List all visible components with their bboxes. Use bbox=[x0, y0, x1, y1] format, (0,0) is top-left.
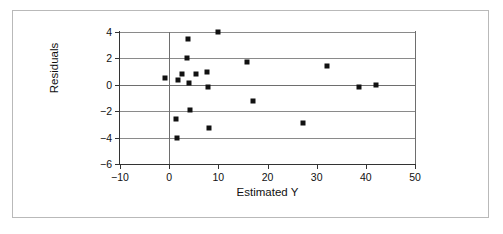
data-point bbox=[206, 84, 211, 89]
data-point bbox=[216, 30, 221, 35]
x-tick-label-10: 10 bbox=[212, 172, 224, 183]
right-spine bbox=[415, 31, 416, 165]
figure-root: −6−4−2024 −1001020304050 Estimated Y Res… bbox=[0, 0, 503, 234]
x-tick-50 bbox=[415, 164, 416, 169]
data-point bbox=[250, 99, 255, 104]
y-tick-label-2: 2 bbox=[106, 53, 112, 64]
x-tick-label-20: 20 bbox=[262, 172, 274, 183]
x-tick--10 bbox=[120, 164, 121, 169]
data-point bbox=[193, 71, 198, 76]
data-point bbox=[176, 78, 181, 83]
gridline-y--2 bbox=[120, 111, 415, 112]
zero-reference-line bbox=[169, 32, 170, 164]
data-point bbox=[188, 107, 193, 112]
data-point bbox=[163, 75, 168, 80]
data-point bbox=[175, 135, 180, 140]
data-point bbox=[184, 55, 189, 60]
y-tick-label--2: −2 bbox=[100, 106, 112, 117]
data-point bbox=[206, 125, 211, 130]
y-tick-label--4: −4 bbox=[100, 132, 112, 143]
x-axis-title: Estimated Y bbox=[120, 186, 415, 198]
y-tick-2 bbox=[115, 58, 120, 59]
gridline-y-0 bbox=[120, 85, 415, 86]
y-axis-title: Residuals bbox=[48, 8, 60, 128]
data-point bbox=[374, 82, 379, 87]
y-tick-4 bbox=[115, 32, 120, 33]
y-tick-label-4: 4 bbox=[106, 27, 112, 38]
y-tick-label--6: −6 bbox=[100, 159, 112, 170]
data-point bbox=[357, 84, 362, 89]
x-tick-label-40: 40 bbox=[360, 172, 372, 183]
data-point bbox=[187, 81, 192, 86]
x-tick-label-50: 50 bbox=[409, 172, 421, 183]
x-tick-10 bbox=[218, 164, 219, 169]
y-tick-0 bbox=[115, 85, 120, 86]
x-tick-30 bbox=[317, 164, 318, 169]
y-tick--4 bbox=[115, 138, 120, 139]
y-axis-line bbox=[119, 31, 120, 165]
plot-box bbox=[120, 32, 415, 164]
plot-area: −6−4−2024 −1001020304050 bbox=[120, 32, 415, 164]
gridline-y-4 bbox=[120, 32, 415, 33]
y-tick--2 bbox=[115, 111, 120, 112]
data-point bbox=[179, 71, 184, 76]
data-point bbox=[301, 121, 306, 126]
x-tick-0 bbox=[169, 164, 170, 169]
data-point bbox=[244, 60, 249, 65]
x-tick-20 bbox=[268, 164, 269, 169]
x-tick-40 bbox=[366, 164, 367, 169]
gridline-y--4 bbox=[120, 138, 415, 139]
data-point bbox=[325, 64, 330, 69]
x-tick-label-0: 0 bbox=[166, 172, 172, 183]
data-point bbox=[205, 69, 210, 74]
x-tick-label--10: −10 bbox=[111, 172, 129, 183]
y-tick-label-0: 0 bbox=[106, 80, 112, 91]
data-point bbox=[185, 37, 190, 42]
x-tick-label-30: 30 bbox=[311, 172, 323, 183]
gridline-y-2 bbox=[120, 58, 415, 59]
data-point bbox=[173, 117, 178, 122]
